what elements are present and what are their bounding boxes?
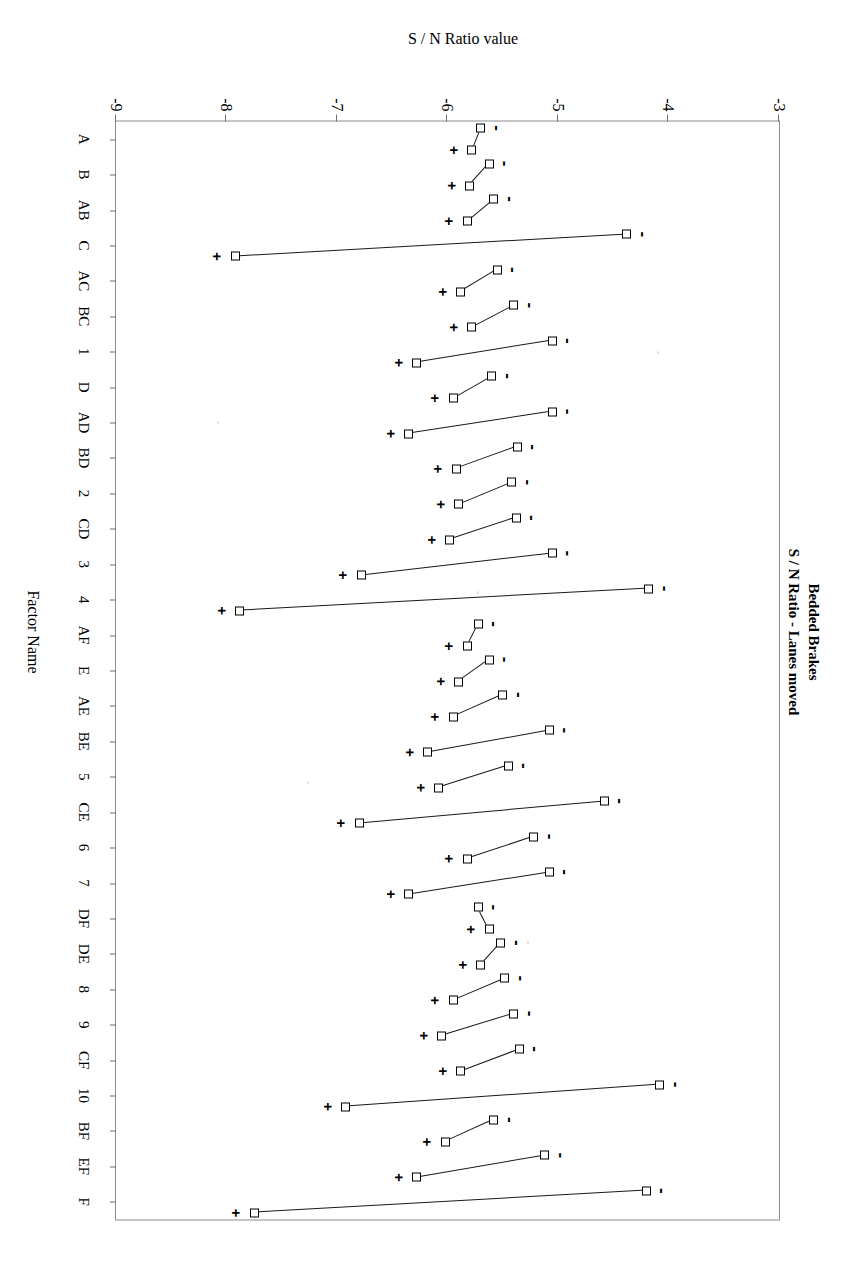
- value-axis-tick-label: -5: [551, 73, 565, 111]
- data-point-low: [642, 1186, 651, 1195]
- level-label-plus: +: [447, 178, 457, 192]
- level-label-plus: +: [422, 1134, 432, 1148]
- level-label-minus: -: [505, 1112, 515, 1126]
- category-axis-tick: [110, 493, 116, 494]
- value-axis-tick: [778, 114, 779, 121]
- data-point-low: [548, 407, 557, 416]
- data-point-low: [507, 477, 516, 486]
- level-label-plus: +: [444, 639, 454, 653]
- category-axis-tick: [110, 1024, 116, 1025]
- effect-connector-line: [359, 800, 604, 823]
- data-point-high: [341, 1102, 350, 1111]
- data-point-low: [548, 548, 557, 557]
- data-point-low: [513, 442, 522, 451]
- category-axis-tick: [110, 705, 116, 706]
- level-label-minus: -: [615, 794, 625, 808]
- level-label-minus: -: [657, 1183, 667, 1197]
- category-axis-title: Factor Name: [24, 0, 42, 1263]
- level-label-plus: +: [438, 1064, 448, 1078]
- category-axis-tick: [110, 599, 116, 600]
- data-point-high: [467, 145, 476, 154]
- level-label-minus: -: [638, 227, 648, 241]
- data-point-high: [467, 322, 476, 331]
- scan-artifact: [307, 781, 309, 783]
- data-point-high: [485, 924, 494, 933]
- effect-connector-line: [471, 304, 513, 327]
- level-label-plus: +: [405, 745, 415, 759]
- data-point-low: [504, 761, 513, 770]
- category-axis-tick: [110, 174, 116, 175]
- level-label-minus: -: [563, 546, 573, 560]
- effect-connector-line: [361, 552, 552, 575]
- effect-connector-line: [409, 871, 549, 894]
- level-label-plus: +: [458, 957, 468, 971]
- data-point-high: [463, 854, 472, 863]
- level-label-plus: +: [430, 709, 440, 723]
- effect-connector-line: [453, 977, 505, 1000]
- level-label-minus: -: [505, 192, 515, 206]
- level-label-minus: -: [525, 1006, 535, 1020]
- level-label-plus: +: [323, 1099, 333, 1113]
- level-label-plus: +: [467, 922, 477, 936]
- data-point-low: [655, 1080, 664, 1089]
- data-point-low: [487, 371, 496, 380]
- scan-artifact: [527, 941, 529, 943]
- effect-connector-line: [449, 516, 516, 539]
- value-axis-tick: [557, 114, 558, 121]
- effect-connector-line: [458, 481, 511, 504]
- effect-connector-line: [460, 1048, 519, 1071]
- data-point-low: [489, 194, 498, 203]
- data-point-high: [404, 429, 413, 438]
- data-point-low: [548, 336, 557, 345]
- level-label-minus: -: [545, 829, 555, 843]
- category-axis-tick: [110, 387, 116, 388]
- effect-connector-line: [456, 446, 517, 469]
- data-point-high: [449, 393, 458, 402]
- data-point-high: [452, 464, 461, 473]
- level-label-minus: -: [528, 439, 538, 453]
- chart-stage: Bedded Brakes S / N Ratio - Lanes moved …: [0, 0, 842, 1263]
- data-point-low: [529, 832, 538, 841]
- value-axis-tick-label: -3: [772, 73, 786, 111]
- category-axis-tick: [110, 741, 116, 742]
- effect-connector-line: [460, 269, 497, 292]
- effect-connector-line: [467, 835, 534, 858]
- data-point-high: [456, 287, 465, 296]
- level-label-plus: +: [427, 532, 437, 546]
- data-point-high: [441, 1137, 450, 1146]
- category-axis-tick: [110, 564, 116, 565]
- effect-connector-line: [442, 1012, 514, 1035]
- value-axis-tick: [226, 114, 227, 121]
- level-label-plus: +: [394, 355, 404, 369]
- level-label-minus: -: [525, 298, 535, 312]
- category-axis-tick: [110, 1095, 116, 1096]
- value-axis-tick: [668, 114, 669, 121]
- plot-area: -3-4-5-6-7-8-9ABABCACBC1DADBD2CD34AFEAEB…: [115, 120, 780, 1220]
- level-label-minus: -: [523, 475, 533, 489]
- level-label-minus: -: [563, 404, 573, 418]
- category-axis-tick: [110, 1060, 116, 1061]
- level-label-minus: -: [501, 652, 511, 666]
- effect-connector-line: [235, 233, 626, 256]
- data-point-high: [437, 1031, 446, 1040]
- level-label-plus: +: [416, 780, 426, 794]
- category-axis-tick: [110, 351, 116, 352]
- effect-connector-line: [240, 587, 649, 610]
- level-label-minus: -: [519, 758, 529, 772]
- level-label-plus: +: [430, 993, 440, 1007]
- category-axis-tick: [110, 989, 116, 990]
- category-axis-tick: [110, 776, 116, 777]
- level-label-minus: -: [671, 1077, 681, 1091]
- data-point-low: [493, 265, 502, 274]
- scan-artifact: [477, 591, 479, 593]
- data-point-high: [404, 889, 413, 898]
- level-label-plus: +: [444, 214, 454, 228]
- data-point-high: [235, 606, 244, 615]
- category-axis-tick: [110, 528, 116, 529]
- data-point-low: [496, 938, 505, 947]
- level-label-plus: +: [338, 568, 348, 582]
- level-label-minus: -: [489, 617, 499, 631]
- data-point-high: [412, 1172, 421, 1181]
- value-axis-tick-label: -4: [662, 73, 676, 111]
- level-label-minus: -: [492, 121, 502, 135]
